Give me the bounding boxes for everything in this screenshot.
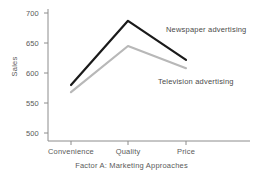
y-tick-label-500: 500 [13, 129, 39, 138]
x-tick-label-price: Price [177, 147, 195, 156]
y-axis-title: Sales [10, 57, 19, 77]
series-label-television-advertising: Television advertising [158, 77, 234, 86]
x-tick-label-convenience: Convenience [48, 147, 94, 156]
series-label-newspaper-advertising: Newspaper advertising [166, 25, 247, 34]
x-axis-title: Factor A: Marketing Approaches [0, 161, 263, 170]
x-tick-label-quality: Quality [116, 147, 141, 156]
y-tick-label-650: 650 [13, 39, 39, 48]
y-tick-label-700: 700 [13, 9, 39, 18]
line-chart: 700 650 600 550 500 Convenience Quality … [0, 0, 263, 179]
y-tick-label-550: 550 [13, 99, 39, 108]
